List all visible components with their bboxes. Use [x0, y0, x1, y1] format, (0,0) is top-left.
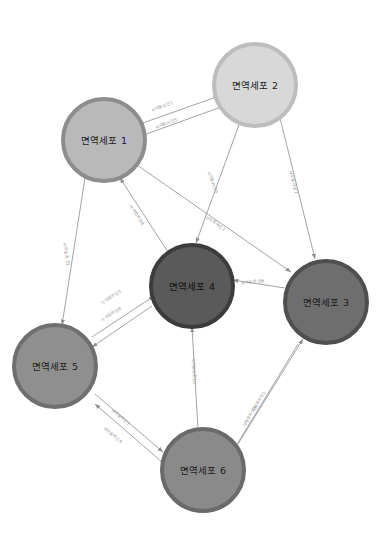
node-cell6[interactable] [162, 429, 244, 511]
node-cell1[interactable] [63, 99, 145, 181]
node-cell5[interactable] [14, 325, 96, 407]
diagram-canvas: 면역세포 1면역세포 2면역세포 3면역세포 4면역세포 5면역세포 6 사이토… [0, 0, 383, 540]
node-layer [0, 0, 383, 540]
node-cell4[interactable] [151, 245, 233, 327]
node-cell3[interactable] [285, 261, 367, 343]
node-cell2[interactable] [214, 44, 296, 126]
